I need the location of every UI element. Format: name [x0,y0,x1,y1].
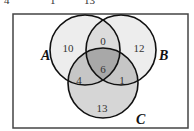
region-a-b-c: 6 [100,63,106,75]
region-a-b-only: 0 [100,35,106,47]
set-b-label: B [158,48,168,63]
region-b-c-only: 1 [119,74,125,86]
set-a-label: A [40,48,50,63]
region-c-only: 13 [97,102,109,114]
region-b-only: 12 [134,42,145,54]
region-a-only: 10 [63,42,75,54]
region-a-c-only: 4 [76,74,82,86]
set-c-label: C [136,112,146,127]
venn-diagram: A B C 10 0 12 6 4 1 13 [0,0,194,131]
